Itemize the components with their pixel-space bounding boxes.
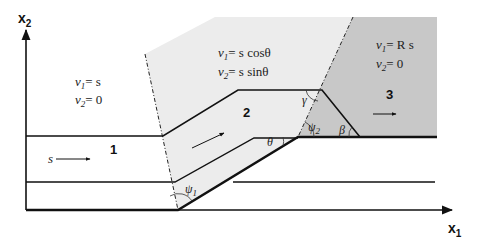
region-1-v2: v2= 0 <box>75 92 102 109</box>
region-1-label: 1 <box>110 142 117 157</box>
x-axis-label: x1 <box>448 220 462 238</box>
region-3-label: 3 <box>386 87 393 102</box>
region-3-v1: v1= R s <box>376 37 414 54</box>
beta-label: β <box>338 123 345 137</box>
region-3-v2: v2= 0 <box>376 56 403 73</box>
region-1-v1: v1= s <box>75 74 101 91</box>
theta-label: θ <box>267 135 273 149</box>
region-2-label: 2 <box>243 105 250 120</box>
region-1-arrow-label: s <box>48 151 53 166</box>
fault-bend-fold-diagram: x2 x1 v1= s v2= 0 1 s v1= s cosθ v2= s s… <box>0 0 478 238</box>
y-axis-label: x2 <box>18 10 32 29</box>
gamma-label: γ <box>302 93 307 107</box>
